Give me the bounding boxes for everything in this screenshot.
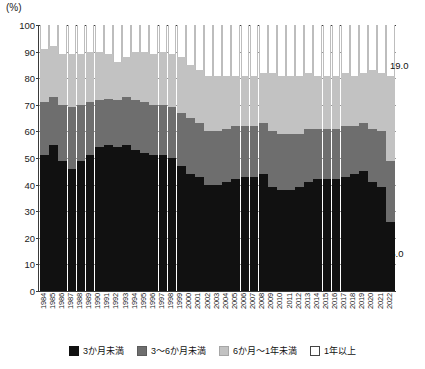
bar-segment bbox=[377, 131, 386, 187]
bar-segment bbox=[259, 73, 268, 124]
legend-swatch-icon bbox=[219, 346, 229, 356]
legend-label: 3～6か月未満 bbox=[151, 344, 206, 357]
x-tick-label: 2019 bbox=[359, 293, 367, 309]
x-tick-label: 2013 bbox=[304, 293, 312, 309]
bar-segment bbox=[377, 187, 386, 291]
bar-segment bbox=[86, 155, 95, 291]
x-label-cell: 1994 bbox=[130, 292, 139, 336]
x-label-cell: 2001 bbox=[194, 292, 203, 336]
bar-segment bbox=[58, 25, 67, 54]
x-label-cell: 2020 bbox=[367, 292, 376, 336]
legend-item: 6か月～1年未満 bbox=[219, 344, 297, 357]
bar-segment bbox=[386, 76, 395, 161]
x-tick-label: 2015 bbox=[322, 293, 330, 309]
bar-column bbox=[195, 25, 204, 291]
bar-segment bbox=[313, 129, 322, 180]
x-tick-label: 2003 bbox=[213, 293, 221, 309]
bar-segment bbox=[113, 62, 122, 99]
bar-segment bbox=[286, 76, 295, 135]
bar-segment bbox=[77, 161, 86, 291]
bar-segment bbox=[313, 25, 322, 76]
x-label-cell: 2014 bbox=[312, 292, 321, 336]
bar-column bbox=[250, 25, 259, 291]
bar-segment bbox=[204, 76, 213, 132]
x-tick-label: 1990 bbox=[94, 293, 102, 309]
y-tick-label: 30 bbox=[24, 206, 35, 217]
bar-column bbox=[222, 25, 231, 291]
bar-segment bbox=[86, 52, 95, 103]
bar-column bbox=[104, 25, 113, 291]
bar-segment bbox=[313, 179, 322, 291]
legend-label: 3か月未満 bbox=[83, 344, 124, 357]
bar-segment bbox=[250, 25, 259, 76]
x-label-cell: 1996 bbox=[148, 292, 157, 336]
bar-segment bbox=[49, 145, 58, 291]
bar-segment bbox=[195, 177, 204, 291]
bar-segment bbox=[259, 123, 268, 174]
bar-column bbox=[58, 25, 67, 291]
bar-segment bbox=[231, 25, 240, 76]
x-tick-label: 1993 bbox=[122, 293, 130, 309]
bar-segment bbox=[122, 97, 131, 145]
x-label-cell: 1992 bbox=[112, 292, 121, 336]
bar-segment bbox=[368, 70, 377, 129]
bar-segment bbox=[213, 76, 222, 132]
bar-column bbox=[323, 25, 332, 291]
bar-segment bbox=[323, 179, 332, 291]
bar-segment bbox=[86, 102, 95, 155]
x-tick-label: 1991 bbox=[104, 293, 112, 309]
bar-segment bbox=[159, 155, 168, 291]
bar-segment bbox=[68, 169, 77, 291]
x-tick-label: 2012 bbox=[295, 293, 303, 309]
x-label-cell: 1997 bbox=[157, 292, 166, 336]
bar-column bbox=[131, 25, 140, 291]
bar-segment bbox=[104, 54, 113, 99]
bar-segment bbox=[222, 129, 231, 182]
bar-segment bbox=[149, 155, 158, 291]
bar-segment bbox=[140, 102, 149, 153]
bar-segment bbox=[159, 52, 168, 105]
bar-segment bbox=[341, 25, 350, 73]
y-tick-label: 60 bbox=[24, 126, 35, 137]
bar-segment bbox=[177, 166, 186, 291]
x-tick-label: 2008 bbox=[258, 293, 266, 309]
bar-segment bbox=[286, 190, 295, 291]
bar-segment bbox=[231, 126, 240, 179]
y-tick-label: 10 bbox=[24, 259, 35, 270]
bar-column bbox=[149, 25, 158, 291]
bar-column bbox=[68, 25, 77, 291]
x-label-cell: 2012 bbox=[294, 292, 303, 336]
bar-segment bbox=[241, 25, 250, 76]
bar-segment bbox=[177, 25, 186, 57]
bar-segment bbox=[277, 190, 286, 291]
bar-column bbox=[86, 25, 95, 291]
x-tick-label: 2009 bbox=[267, 293, 275, 309]
bar-segment bbox=[149, 54, 158, 105]
x-tick-label: 1992 bbox=[113, 293, 121, 309]
bar-segment bbox=[295, 25, 304, 76]
y-tick-label: 100 bbox=[19, 20, 35, 31]
bar-segment bbox=[168, 158, 177, 291]
bar-segment bbox=[213, 185, 222, 291]
bar-segment bbox=[159, 105, 168, 156]
bar-column bbox=[40, 25, 49, 291]
legend-swatch-icon bbox=[137, 346, 147, 356]
bar-segment bbox=[313, 76, 322, 129]
bar-segment bbox=[58, 161, 67, 291]
bar-segment bbox=[95, 25, 104, 52]
bar-column bbox=[122, 25, 131, 291]
bar-segment bbox=[268, 131, 277, 187]
bar-segment bbox=[204, 131, 213, 184]
bar-segment bbox=[104, 25, 113, 54]
bar-segment bbox=[268, 73, 277, 132]
bar-segment bbox=[332, 179, 341, 291]
bar-segment bbox=[140, 52, 149, 103]
bar-segment bbox=[168, 54, 177, 107]
bar-column bbox=[241, 25, 250, 291]
bar-column bbox=[159, 25, 168, 291]
bar-segment bbox=[104, 145, 113, 291]
x-tick-label: 1999 bbox=[176, 293, 184, 309]
bar-segment bbox=[131, 100, 140, 151]
bar-segment bbox=[140, 25, 149, 52]
bar-segment bbox=[359, 73, 368, 124]
